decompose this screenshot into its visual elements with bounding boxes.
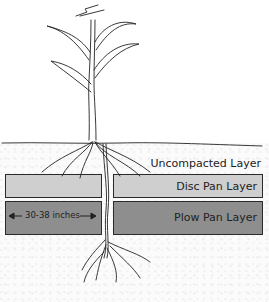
- disc-pan-layer-label: Disc Pan Layer: [176, 180, 257, 193]
- measurement-label: 30-38 inches: [25, 210, 80, 220]
- ground-line: [2, 143, 262, 146]
- soil-compaction-diagram: Uncompacted Layer Disc Pan Layer Plow Pa…: [0, 0, 269, 302]
- uncompacted-layer-label: Uncompacted Layer: [150, 157, 261, 170]
- plow-pan-layer-label: Plow Pan Layer: [174, 211, 257, 224]
- plant-illustration: [0, 0, 269, 302]
